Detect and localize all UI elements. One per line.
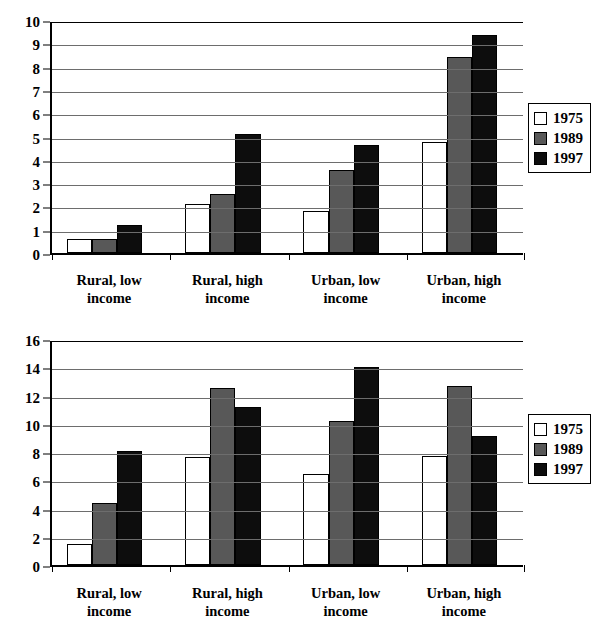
category-label: Rural, low income [50, 585, 168, 620]
gridline [52, 115, 523, 116]
category-label: Rural, high income [168, 272, 286, 307]
y-tick-label: 10 [25, 418, 40, 433]
y-axis-tick [43, 369, 50, 370]
y-tick-label: 4 [33, 503, 41, 518]
bar-1997-cat0 [117, 451, 142, 565]
y-tick-label: 2 [33, 201, 41, 216]
bar-1989-cat2 [329, 421, 354, 565]
black-swatch-icon [534, 152, 547, 165]
gray-swatch-icon [534, 132, 547, 145]
y-tick-label: 10 [25, 15, 40, 30]
gridline [52, 369, 523, 370]
y-axis-tick [43, 45, 50, 46]
bar-1989-cat2 [329, 170, 354, 253]
legend-row-1989: 1989 [534, 439, 583, 459]
bar-1975-cat1 [185, 204, 210, 253]
y-tick-label: 0 [33, 248, 41, 263]
y-tick-label: 4 [33, 154, 41, 169]
y-axis-tick [43, 138, 50, 139]
y-tick-label: 12 [25, 390, 40, 405]
gridline [52, 426, 523, 427]
y-axis-tick [43, 185, 50, 186]
gridline [52, 454, 523, 455]
y-axis-tick [43, 510, 50, 511]
y-tick-label: 16 [25, 334, 40, 349]
category-label: Urban, high income [405, 585, 523, 620]
x-axis-tick [407, 253, 408, 260]
legend-label-1975: 1975 [553, 111, 583, 126]
y-axis-tick [43, 115, 50, 116]
bar-1975-cat0 [67, 544, 92, 565]
legend-row-1989: 1989 [534, 128, 583, 148]
gridline [52, 185, 523, 186]
y-axis-tick [43, 208, 50, 209]
x-axis-tick [170, 565, 171, 572]
gray-swatch-icon [534, 443, 547, 456]
gridline [52, 69, 523, 70]
y-axis-tick [43, 454, 50, 455]
y-tick-label: 0 [33, 560, 41, 575]
bar-1989-cat0 [92, 239, 117, 253]
plot-area-bottom [50, 341, 523, 567]
y-axis-labels-bottom: 0246810121416 [0, 341, 40, 567]
x-axis-tick [52, 253, 53, 260]
y-axis-tick [43, 482, 50, 483]
legend-row-1975: 1975 [534, 108, 583, 128]
x-axis-tick [289, 565, 290, 572]
bars-layer-bottom [52, 341, 523, 565]
category-label: Urban, high income [405, 272, 523, 307]
y-tick-label: 5 [33, 131, 41, 146]
category-label: Urban, low income [287, 272, 405, 307]
bar-1997-cat1 [235, 134, 260, 253]
y-tick-label: 8 [33, 61, 41, 76]
x-axis-tick [52, 565, 53, 572]
y-tick-label: 3 [33, 178, 41, 193]
y-axis-tick [43, 91, 50, 92]
y-tick-label: 7 [33, 84, 41, 99]
legend-label-1975: 1975 [553, 422, 583, 437]
white-swatch-icon [534, 423, 547, 436]
gridline [52, 208, 523, 209]
bar-1997-cat1 [235, 407, 260, 565]
legend-label-1997: 1997 [553, 151, 583, 166]
gridline [52, 139, 523, 140]
gridline [52, 45, 523, 46]
bar-1997-cat0 [117, 225, 142, 253]
bar-chart-top: 012345678910 Rural, low incomeRural, hig… [0, 0, 616, 320]
category-label: Rural, low income [50, 272, 168, 307]
legend-label-1989: 1989 [553, 442, 583, 457]
y-axis-tick [43, 397, 50, 398]
bar-1975-cat0 [67, 239, 92, 253]
y-tick-label: 6 [33, 475, 41, 490]
gridline [52, 92, 523, 93]
legend-row-1975: 1975 [534, 419, 583, 439]
plot-area-top [50, 22, 523, 255]
gridline [52, 398, 523, 399]
x-axis-tick [289, 253, 290, 260]
y-tick-label: 14 [25, 362, 40, 377]
bar-1989-cat1 [210, 194, 235, 253]
chart-page: { "chart_data": [ { "id": "top", "type":… [0, 0, 616, 641]
y-axis-tick [43, 255, 50, 256]
legend-bottom: 1975 1989 1997 [528, 414, 591, 484]
legend-top: 1975 1989 1997 [528, 103, 591, 173]
gridline [52, 539, 523, 540]
gridline [52, 232, 523, 233]
y-axis-tick [43, 425, 50, 426]
y-axis-tick [43, 22, 50, 23]
category-label: Urban, low income [287, 585, 405, 620]
x-axis-tick [524, 565, 525, 572]
y-axis-tick [43, 538, 50, 539]
category-label: Rural, high income [168, 585, 286, 620]
y-axis-tick [43, 231, 50, 232]
x-axis-tick [170, 253, 171, 260]
y-tick-label: 9 [33, 38, 41, 53]
bar-1997-cat3 [472, 436, 497, 565]
bar-chart-bottom: 0246810121416 Rural, low incomeRural, hi… [0, 320, 616, 641]
y-tick-label: 1 [33, 224, 41, 239]
gridline [52, 511, 523, 512]
y-axis-tick [43, 341, 50, 342]
legend-label-1989: 1989 [553, 131, 583, 146]
y-tick-label: 8 [33, 447, 41, 462]
gridline [52, 22, 523, 23]
